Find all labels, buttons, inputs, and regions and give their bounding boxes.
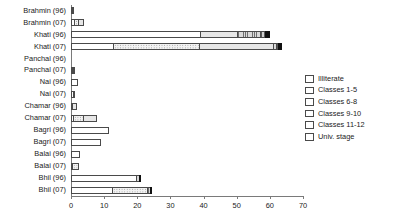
bar-row — [71, 55, 303, 62]
y-axis-label: Brahmin (07) — [0, 19, 66, 27]
bar-segment-classes-1-5 — [112, 187, 147, 194]
y-axis-label: Nai (96) — [0, 78, 66, 86]
stacked-bar — [71, 103, 77, 110]
legend-label: Univ. stage — [318, 133, 354, 141]
stacked-bar — [71, 91, 75, 98]
bar-row — [71, 115, 303, 122]
bar-row — [71, 7, 303, 14]
y-axis-label: Bhil (96) — [0, 174, 66, 182]
x-axis-tick-label: 20 — [126, 201, 148, 210]
legend-swatch-icon — [305, 98, 314, 106]
y-axis-label: Khati (96) — [0, 31, 66, 39]
bar-segment-classes-1-5 — [72, 163, 79, 170]
bar-segment-illiterate — [71, 151, 80, 158]
bar-segment-classes-9-10 — [73, 67, 75, 74]
bar-row — [71, 175, 303, 182]
bar-row — [71, 127, 303, 134]
bar-segment-illiterate — [71, 187, 112, 194]
bar-segment-univ-stage — [150, 187, 152, 194]
bar-segment-classes-9-10 — [237, 31, 260, 38]
y-axis-label: Chamar (07) — [0, 114, 66, 122]
x-axis-tick-label: 70 — [292, 201, 314, 210]
x-axis-tick — [170, 196, 171, 199]
y-axis-label: Bhil (07) — [0, 186, 66, 194]
x-axis-tick — [71, 196, 72, 199]
stacked-bar — [71, 115, 97, 122]
bar-segment-classes-6-8 — [78, 19, 85, 26]
bar-segment-univ-stage — [265, 31, 270, 38]
bar-row — [71, 103, 303, 110]
bar-row — [71, 151, 303, 158]
stacked-bar — [71, 175, 141, 182]
stacked-bar — [71, 139, 101, 146]
y-axis-label: Panchal (96) — [0, 55, 66, 63]
legend-swatch-icon — [305, 121, 314, 129]
plot-area — [71, 5, 303, 196]
bar-row — [71, 79, 303, 86]
stacked-bar — [71, 67, 74, 74]
legend-swatch-icon — [305, 87, 314, 95]
x-axis-tick-label: 60 — [259, 201, 281, 210]
legend-swatch-icon — [305, 133, 314, 141]
y-axis-label: Balai (96) — [0, 150, 66, 158]
bar-segment-illiterate — [71, 127, 109, 134]
legend-item-classes-1-5[interactable]: Classes 1-5 — [305, 85, 393, 97]
bar-row — [71, 187, 303, 194]
y-axis-label: Panchal (07) — [0, 66, 66, 74]
bar-segment-classes-6-8 — [199, 43, 274, 50]
x-axis-tick — [204, 196, 205, 199]
bar-row — [71, 19, 303, 26]
stacked-bar — [71, 151, 80, 158]
bar-row — [71, 67, 303, 74]
bar-segment-illiterate — [71, 43, 113, 50]
bar-row — [71, 31, 303, 38]
chart-legend: IlliterateClasses 1-5Classes 6-8Classes … — [305, 73, 393, 143]
bar-segment-classes-9-10 — [72, 7, 74, 14]
stacked-bar — [71, 127, 109, 134]
bar-row — [71, 163, 303, 170]
legend-label: Classes 6-8 — [318, 98, 357, 106]
education-by-caste-stacked-bar-chart: Brahmin (96)Brahmin (07)Khati (96)Khati … — [0, 0, 394, 223]
legend-item-classes-11-12[interactable]: Classes 11-12 — [305, 119, 393, 131]
stacked-bar — [71, 43, 282, 50]
y-axis-label: Nai (07) — [0, 90, 66, 98]
stacked-bar — [71, 31, 270, 38]
y-axis-label: Khati (07) — [0, 43, 66, 51]
stacked-bar — [71, 19, 84, 26]
legend-swatch-icon — [305, 75, 314, 83]
stacked-bar — [71, 79, 78, 86]
legend-item-univ-stage[interactable]: Univ. stage — [305, 131, 393, 143]
x-axis-tick-label: 40 — [193, 201, 215, 210]
legend-label: Classes 9-10 — [318, 110, 361, 118]
y-axis-label: Brahmin (96) — [0, 7, 66, 15]
y-axis-category-labels: Brahmin (96)Brahmin (07)Khati (96)Khati … — [0, 5, 69, 196]
y-axis-label: Bagri (96) — [0, 126, 66, 134]
legend-label: Classes 1-5 — [318, 86, 357, 94]
x-axis-tick-label: 30 — [159, 201, 181, 210]
x-axis-tick-label: 10 — [93, 201, 115, 210]
x-axis-tick — [270, 196, 271, 199]
x-axis-tick — [104, 196, 105, 199]
bar-row — [71, 139, 303, 146]
legend-swatch-icon — [305, 110, 314, 118]
bar-segment-classes-1-5 — [73, 115, 83, 122]
stacked-bar — [71, 187, 152, 194]
y-axis-label: Bagri (07) — [0, 138, 66, 146]
y-axis-label: Balai (07) — [0, 162, 66, 170]
legend-item-illiterate[interactable]: Illiterate — [305, 73, 393, 85]
bar-segment-illiterate — [71, 79, 78, 86]
legend-item-classes-9-10[interactable]: Classes 9-10 — [305, 108, 393, 120]
bar-row — [71, 91, 303, 98]
legend-label: Classes 11-12 — [318, 121, 365, 129]
bar-segment-classes-1-5 — [73, 91, 75, 98]
bar-segment-classes-6-8 — [200, 31, 236, 38]
bar-segment-univ-stage — [139, 175, 141, 182]
x-axis-tick-label: 50 — [226, 201, 248, 210]
legend-label: Illiterate — [318, 75, 344, 83]
x-axis-tick — [303, 196, 304, 199]
bar-segment-univ-stage — [278, 43, 282, 50]
x-axis-tick — [237, 196, 238, 199]
bar-segment-illiterate — [71, 175, 136, 182]
x-axis-tick — [137, 196, 138, 199]
legend-item-classes-6-8[interactable]: Classes 6-8 — [305, 96, 393, 108]
